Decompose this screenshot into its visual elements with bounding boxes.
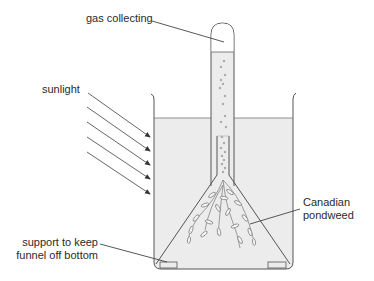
- support-right: [268, 262, 286, 268]
- support-left: [160, 262, 177, 268]
- label-sunlight: sunlight: [42, 83, 80, 95]
- label-pondweed: pondweed: [303, 209, 354, 221]
- label-support-line2: funnel off bottom: [0, 249, 98, 261]
- sunlight-arrows: [87, 93, 150, 194]
- label-canadian: Canadian: [303, 196, 350, 208]
- label-support-line1: support to keep: [16, 236, 98, 248]
- gas: [212, 24, 234, 53]
- diagram-canvas: gas collecting sunlight Canadian pondwee…: [0, 0, 374, 281]
- label-gas-collecting: gas collecting: [86, 12, 153, 24]
